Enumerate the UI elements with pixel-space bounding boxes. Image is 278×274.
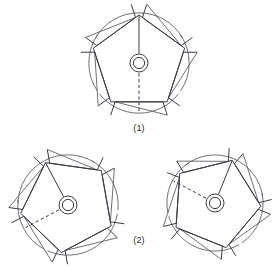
caption-2: (2) — [133, 235, 145, 245]
pentagon-outline — [176, 160, 261, 247]
hub-outer-circle — [130, 54, 148, 72]
figure-1 — [81, 4, 198, 115]
diagram-canvas: (1)(2) — [0, 0, 278, 274]
fold-flap — [229, 209, 271, 255]
fold-flap-crease — [86, 17, 136, 37]
fold-flap-crease — [180, 229, 222, 260]
apex-crease-line — [45, 163, 63, 197]
pentagon-outline — [21, 163, 111, 253]
hub-outer-circle — [59, 196, 77, 214]
fold-flap-crease — [65, 238, 117, 251]
hub-inner-circle — [133, 57, 144, 68]
caption-1: (1) — [133, 123, 145, 133]
fold-flap-crease — [110, 168, 114, 222]
dashed-crease-line — [25, 210, 59, 228]
fold-flap-crease — [169, 52, 198, 98]
captions-layer: (1)(2) — [133, 123, 145, 245]
apex-crease-line — [219, 160, 233, 194]
fold-flap — [86, 4, 136, 45]
fold-flap — [234, 154, 271, 203]
figure-2b — [163, 148, 271, 259]
circumscribe-arc-right — [242, 193, 263, 243]
figure-2a — [9, 150, 124, 265]
fold-flap — [142, 4, 192, 45]
diagram-svg: (1)(2) — [0, 0, 278, 274]
figures-layer — [9, 4, 272, 264]
circumscribe-arc-bottom — [169, 216, 239, 251]
fold-flap — [12, 216, 59, 262]
hub-inner-circle — [62, 199, 73, 210]
hub-outer-circle — [206, 194, 224, 212]
hub-inner-circle — [209, 197, 220, 208]
fold-flap — [169, 52, 198, 106]
fold-flap — [177, 148, 229, 172]
